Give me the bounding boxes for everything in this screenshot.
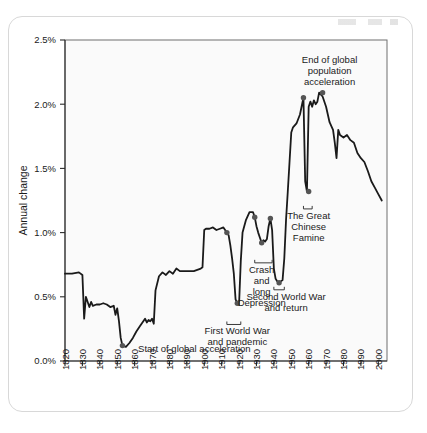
y-tick-label: 0.0% xyxy=(34,355,56,366)
plot-background xyxy=(65,40,387,361)
marker-great-chinese-famine-peak xyxy=(301,95,306,100)
y-tick-label: 2.0% xyxy=(34,99,56,110)
x-tick-label: 1830 xyxy=(77,349,88,370)
x-tick-label: 1950 xyxy=(286,349,297,370)
x-tick-label: 1960 xyxy=(303,349,314,370)
y-tick-label: 2.5% xyxy=(34,34,56,45)
x-tick-label: 1820 xyxy=(60,349,71,370)
y-axis: 0.0%0.5%1.0%1.5%2.0%2.5% xyxy=(34,34,65,366)
chart-card: 0.0%0.5%1.0%1.5%2.0%2.5% 182018301840185… xyxy=(8,16,413,412)
y-tick-label: 1.0% xyxy=(34,227,56,238)
marker-crash-and-depression-end xyxy=(268,216,273,221)
x-tick-label: 1840 xyxy=(94,349,105,370)
x-tick-label: 1940 xyxy=(268,349,279,370)
x-tick-label: 1930 xyxy=(251,349,262,370)
annotation-first-world-war-and-pandemic: First World War xyxy=(205,325,270,336)
annotation-crash-and-long-depression: and xyxy=(254,275,270,286)
annotation-second-world-war-and-return: and return xyxy=(264,302,307,313)
marker-second-world-war-trough xyxy=(276,280,281,285)
annotation-first-world-war-and-pandemic: and pandemic xyxy=(207,336,267,347)
annotation-the-great-chinese-famine: Famine xyxy=(293,232,325,243)
marker-end-of-global-population-acceleration xyxy=(320,90,325,95)
x-tick-label: 1980 xyxy=(338,349,349,370)
annotation-end-of-global-population-acceleration: population xyxy=(308,65,352,76)
x-tick-label: 2000 xyxy=(373,349,384,370)
x-tick-label: 1850 xyxy=(112,349,123,370)
marker-crash-and-depression-trough xyxy=(259,240,264,245)
annotation-end-of-global-population-acceleration: End of global xyxy=(302,54,357,65)
x-tick-label: 1970 xyxy=(321,349,332,370)
annotation-the-great-chinese-famine: Chinese xyxy=(291,221,326,232)
y-axis-title: Annual change xyxy=(17,165,29,235)
y-tick-label: 0.5% xyxy=(34,291,56,302)
marker-crash-and-depression-start xyxy=(252,214,257,219)
marker-first-world-war-start xyxy=(224,230,229,235)
y-tick-label: 1.5% xyxy=(34,163,56,174)
marker-great-chinese-famine-trough xyxy=(306,189,311,194)
marker-start-of-global-acceleration xyxy=(120,343,125,348)
population-annual-change-chart: 0.0%0.5%1.0%1.5%2.0%2.5% 182018301840185… xyxy=(9,17,414,413)
annotation-the-great-chinese-famine: The Great xyxy=(287,210,330,221)
x-tick-label: 1990 xyxy=(355,349,366,370)
annotation-second-world-war-and-return: Second World War xyxy=(246,291,325,302)
annotation-end-of-global-population-acceleration: acceleration xyxy=(304,76,355,87)
annotation-crash-and-long-depression: Crash xyxy=(249,264,274,275)
